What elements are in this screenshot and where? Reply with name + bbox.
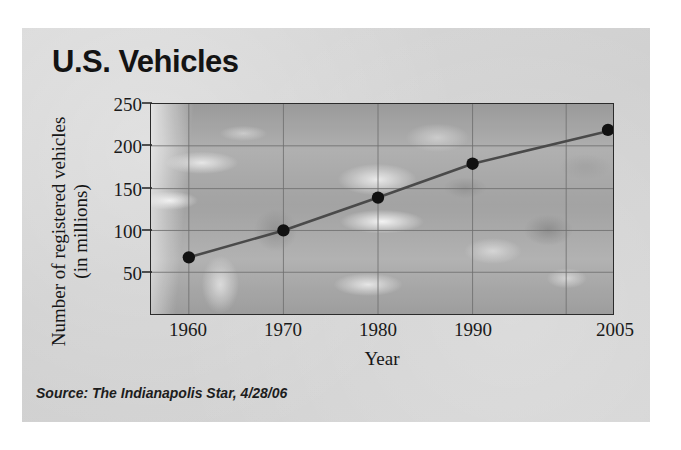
- series-line-chart: [151, 104, 613, 315]
- data-line: [189, 130, 613, 257]
- page-title: U.S. Vehicles: [52, 44, 239, 80]
- gridlines-vertical: [189, 104, 566, 315]
- chart-figure: U.S. Vehicles 250 200 150 100 50 Number …: [0, 0, 681, 450]
- x-tick-1960: 1960: [153, 320, 223, 339]
- plot-area: [150, 103, 614, 315]
- y-tick-150: 150: [114, 180, 143, 199]
- x-axis-label: Year: [150, 348, 614, 370]
- y-tick-100: 100: [114, 222, 143, 241]
- source-note: Source: The Indianapolis Star, 4/28/06: [36, 385, 287, 401]
- data-point-1970: [277, 224, 289, 236]
- x-tick-1980: 1980: [343, 320, 413, 339]
- y-tick-marks: [140, 95, 152, 285]
- data-point-2005: [602, 124, 613, 136]
- y-axis-label: Number of registered vehicles (in millio…: [48, 116, 93, 346]
- y-axis-ticks: 250 200 150 100 50: [96, 0, 142, 450]
- x-tick-2005: 2005: [580, 320, 650, 339]
- y-tick-250: 250: [114, 95, 143, 114]
- x-tick-1970: 1970: [248, 320, 318, 339]
- gridlines-horizontal: [151, 146, 613, 272]
- data-point-1980: [372, 191, 384, 203]
- x-tick-1990: 1990: [438, 320, 508, 339]
- data-point-1960: [183, 251, 195, 263]
- y-tick-200: 200: [114, 137, 143, 156]
- data-point-1990: [466, 158, 478, 170]
